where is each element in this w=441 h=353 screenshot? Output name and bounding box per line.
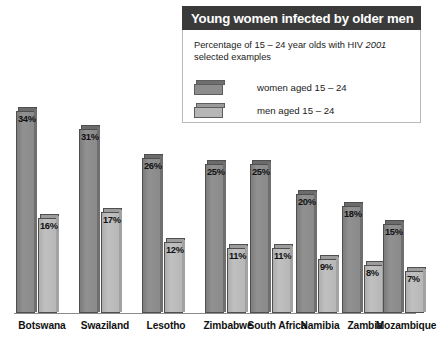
bar-side-face: [97, 127, 100, 312]
bar-side-face: [360, 204, 363, 312]
bar-side-face: [336, 257, 339, 312]
bar-side-face: [268, 162, 271, 312]
chart-title: Young women infected by older men: [182, 11, 414, 26]
bar-value-label: 31%: [81, 132, 99, 142]
bar-value-label: 25%: [252, 167, 270, 177]
legend-label-men: men aged 15 – 24: [257, 105, 334, 116]
bar-value-label: 20%: [298, 197, 316, 207]
bar-value-label: 11%: [274, 251, 291, 261]
bar-side-face: [223, 162, 226, 312]
bar-rect: 7%: [405, 271, 424, 313]
bar-value-label: 12%: [166, 245, 184, 255]
bar-rect: 18%: [342, 206, 361, 313]
subtitle-prefix: Percentage of 15 – 24 year olds with HIV: [194, 40, 366, 50]
bar-rect: 26%: [142, 158, 161, 313]
bar-value-label: 7%: [407, 274, 420, 284]
chart-baseline: [14, 313, 416, 314]
bar-rect: 34%: [16, 111, 35, 313]
women-swatch-body: [194, 84, 223, 95]
bar-value-label: 25%: [207, 167, 225, 177]
bar-group: 31%17%: [79, 83, 127, 313]
bar-rect: 17%: [101, 212, 120, 313]
bar-rect: 11%: [227, 248, 246, 313]
bar-men: 16%: [38, 83, 59, 313]
bar-value-label: 18%: [344, 209, 362, 219]
bar-group: 34%16%: [16, 83, 64, 313]
bar-rect: 16%: [38, 218, 57, 313]
bar-women: 31%: [79, 83, 100, 313]
bar-rect: 15%: [383, 224, 402, 313]
bar-rect: 20%: [296, 194, 315, 313]
legend-label-women: women aged 15 – 24: [257, 82, 347, 93]
bar-value-label: 17%: [103, 215, 121, 225]
bar-rect: 25%: [205, 164, 224, 313]
category-label: Mozambique: [346, 320, 441, 331]
bar-value-label: 16%: [40, 221, 58, 231]
men-swatch-icon: [194, 103, 225, 119]
chart-subtitle: Percentage of 15 – 24 year olds with HIV…: [194, 39, 412, 64]
bar-value-label: 15%: [385, 227, 403, 237]
bar-women: 34%: [16, 83, 37, 313]
bar-men: 17%: [101, 83, 122, 313]
men-swatch-body: [194, 107, 223, 118]
bar-value-label: 34%: [18, 114, 36, 124]
bar-value-label: 26%: [144, 161, 162, 171]
bar-rect: 12%: [164, 242, 183, 313]
bar-value-label: 8%: [366, 268, 379, 278]
bar-side-face: [160, 156, 163, 312]
bar-side-face: [423, 269, 426, 312]
bar-value-label: 9%: [320, 262, 333, 272]
legend-item-women: women aged 15 – 24: [194, 79, 347, 96]
chart-title-bar: Young women infected by older men: [182, 6, 421, 30]
bar-rect: 9%: [318, 259, 337, 313]
women-swatch-icon: [194, 80, 225, 96]
bar-side-face: [119, 210, 122, 312]
legend-item-men: men aged 15 – 24: [194, 102, 334, 119]
bar-side-face: [314, 192, 317, 312]
bar-value-label: 11%: [229, 251, 246, 261]
bar-rect: 25%: [250, 164, 269, 313]
subtitle-suffix: selected examples: [194, 52, 271, 62]
bar-side-face: [34, 109, 37, 312]
bar-rect: 8%: [364, 265, 383, 313]
subtitle-year: 2001: [366, 40, 387, 50]
legend-panel: Young women infected by older men Percen…: [182, 6, 421, 123]
bar-rect: 11%: [272, 248, 291, 313]
bar-rect: 31%: [79, 129, 98, 313]
bar-women: 26%: [142, 83, 163, 313]
